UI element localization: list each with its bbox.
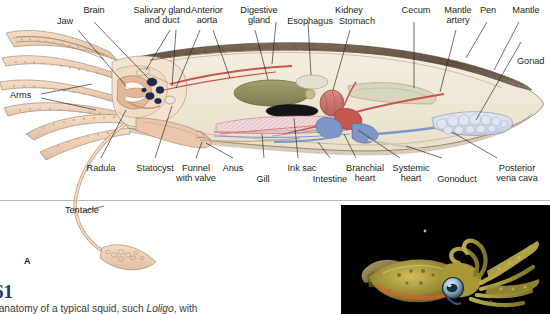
label-tentacle: Tentacle [65, 205, 99, 215]
label-cecum: Cecum [395, 5, 437, 15]
label-kidney: Kidney [330, 5, 368, 15]
figure-page: Brain Jaw Salivary gland and duct Anteri… [0, 0, 550, 314]
label-branchial-heart: Branchial heart [340, 163, 390, 183]
label-mantle-artery: Mantle artery [438, 5, 478, 25]
caption-divider-rule [0, 200, 550, 201]
label-anterior-aorta: Anterior aorta [182, 5, 232, 25]
figure-number: 61 [0, 281, 13, 303]
panel-letter-a: A [24, 256, 31, 266]
label-posterior-vena-cava: Posterior vena cava [485, 163, 549, 183]
label-arms: Arms [10, 90, 31, 100]
label-radula: Radula [77, 163, 125, 173]
label-gonad: Gonad [517, 56, 544, 66]
label-pen: Pen [474, 5, 502, 15]
label-anus: Anus [215, 163, 251, 173]
label-brain: Brain [76, 5, 112, 15]
label-ink-sac: Ink sac [281, 163, 323, 173]
squid-photograph [341, 205, 550, 314]
label-gill: Gill [248, 174, 278, 184]
label-mantle: Mantle [505, 5, 547, 15]
label-stomach: Stomach [333, 16, 381, 26]
figure-caption: f anatomy of a typical squid, such Lolig… [0, 303, 343, 314]
label-digestive-gland: Digestive gland [234, 5, 284, 25]
label-gonoduct: Gonoduct [428, 174, 486, 184]
squid-photo-artwork [341, 205, 550, 314]
label-esophagus: Esophagus [280, 16, 340, 26]
label-jaw: Jaw [57, 16, 73, 26]
